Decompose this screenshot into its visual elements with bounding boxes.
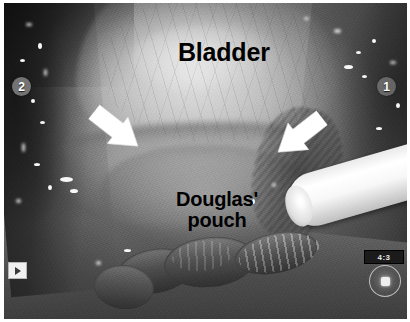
specular-highlight (272, 183, 276, 187)
specular-highlight (38, 43, 42, 49)
dial-gauge-icon (369, 265, 401, 297)
port-marker-1: 1 (377, 77, 396, 96)
specular-highlight (124, 249, 131, 252)
specular-highlight (48, 185, 52, 190)
specular-highlight (376, 127, 382, 130)
specular-highlight (31, 99, 35, 103)
specular-highlight (396, 103, 400, 108)
specular-highlight (40, 121, 45, 124)
lower-shadow (4, 221, 407, 319)
specular-highlight (344, 65, 353, 69)
play-triangle (15, 267, 21, 275)
suction-irrigator-tip (281, 182, 318, 230)
specular-highlight (70, 189, 78, 193)
bowel-loops (112, 231, 324, 307)
specular-highlight (304, 17, 309, 20)
specular-highlight (44, 69, 47, 76)
image-frame: Bladder Douglas' pouch 2 1 4:3 (0, 0, 410, 322)
specular-highlight (60, 177, 73, 182)
specular-highlight (390, 61, 396, 64)
specular-highlight (16, 199, 21, 203)
bladder-label: Bladder (178, 39, 270, 66)
status-readout: 4:3 (364, 250, 404, 264)
specular-highlight (34, 163, 40, 166)
specular-highlight (96, 261, 101, 265)
gauge-hub (381, 277, 390, 286)
specular-highlight (20, 59, 25, 62)
readout-value: 4:3 (377, 253, 390, 262)
play-icon[interactable] (8, 262, 27, 279)
specular-highlight (356, 51, 361, 54)
specular-highlight (334, 29, 341, 33)
port-marker-2: 2 (12, 77, 31, 96)
vignette-top-left (4, 3, 134, 87)
haustral-markings (171, 238, 234, 274)
specular-highlight (22, 143, 25, 152)
specular-highlight (372, 39, 376, 43)
specular-highlight (26, 23, 32, 26)
haustral-markings (235, 227, 323, 279)
pelvic-sidewall-left (4, 3, 119, 297)
douglas-pouch-label: Douglas' pouch (163, 189, 271, 231)
specular-highlight (362, 75, 367, 78)
